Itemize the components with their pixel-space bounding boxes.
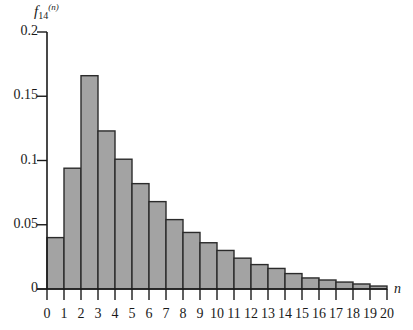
y-axis-label: f14(n) bbox=[34, 2, 59, 21]
bar-8 bbox=[183, 232, 200, 289]
y-tick-label: 0.05 bbox=[14, 217, 39, 231]
bar-7 bbox=[166, 220, 183, 289]
x-axis-label: n bbox=[394, 281, 401, 297]
bar-13 bbox=[268, 268, 285, 289]
y-tick-label: 0.1 bbox=[21, 153, 39, 167]
bar-15 bbox=[302, 278, 319, 289]
bar-3 bbox=[98, 131, 115, 289]
bar-16 bbox=[319, 280, 336, 289]
bar-5 bbox=[132, 184, 149, 289]
plot-area bbox=[0, 0, 413, 330]
bar-14 bbox=[285, 274, 302, 289]
y-tick-label: 0.2 bbox=[21, 24, 39, 38]
y-tick-label: 0.15 bbox=[14, 88, 39, 102]
bar-11 bbox=[234, 258, 251, 289]
histogram-chart: f14(n) n 00.050.10.150.2 012345678910111… bbox=[0, 0, 413, 330]
bar-0 bbox=[47, 238, 64, 289]
bar-6 bbox=[149, 202, 166, 289]
y-tick-label: 0 bbox=[31, 281, 38, 295]
bar-9 bbox=[200, 243, 217, 289]
x-tick-label: 20 bbox=[375, 307, 399, 321]
bar-10 bbox=[217, 250, 234, 289]
bar-2 bbox=[81, 76, 98, 289]
bar-4 bbox=[115, 159, 132, 289]
bar-1 bbox=[64, 168, 81, 289]
bar-12 bbox=[251, 265, 268, 289]
bar-17 bbox=[336, 282, 353, 289]
